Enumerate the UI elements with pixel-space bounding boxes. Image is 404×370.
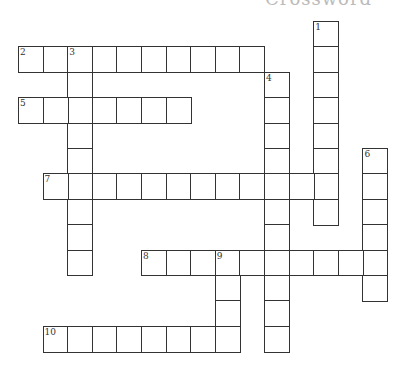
crossword-cell[interactable]: [43, 46, 69, 73]
crossword-cell[interactable]: [141, 173, 167, 200]
clue-number: 10: [45, 327, 56, 337]
crossword-cell[interactable]: [92, 173, 118, 200]
crossword-cell[interactable]: [67, 148, 93, 175]
crossword-cell[interactable]: [67, 123, 93, 150]
clue-number: 5: [20, 98, 26, 108]
crossword-cell[interactable]: 3: [67, 46, 93, 73]
crossword-grid: 12345678910: [0, 0, 404, 370]
crossword-cell[interactable]: [362, 173, 388, 200]
clue-number: 3: [69, 47, 75, 57]
crossword-cell[interactable]: [190, 250, 216, 277]
crossword-cell[interactable]: [116, 97, 142, 124]
crossword-cell[interactable]: [264, 123, 290, 150]
crossword-cell[interactable]: [362, 275, 388, 302]
crossword-cell[interactable]: [362, 199, 388, 226]
crossword-cell[interactable]: [215, 46, 241, 73]
crossword-cell[interactable]: [239, 173, 265, 200]
crossword-cell[interactable]: [215, 326, 241, 353]
crossword-cell[interactable]: [92, 46, 118, 73]
clue-number: 1: [315, 22, 321, 32]
crossword-cell[interactable]: [190, 46, 216, 73]
crossword-cell[interactable]: 10: [43, 326, 69, 353]
crossword-cell[interactable]: [313, 123, 339, 150]
crossword-cell[interactable]: [215, 173, 241, 200]
crossword-cell[interactable]: [313, 148, 339, 175]
crossword-cell[interactable]: [141, 46, 167, 73]
crossword-cell[interactable]: [166, 326, 192, 353]
crossword-cell[interactable]: [264, 148, 290, 175]
crossword-cell[interactable]: [215, 300, 241, 327]
clue-number: 9: [217, 251, 223, 261]
crossword-cell[interactable]: [43, 97, 69, 124]
crossword-cell[interactable]: [362, 224, 388, 251]
crossword-cell[interactable]: [313, 46, 339, 73]
crossword-cell[interactable]: [141, 97, 167, 124]
crossword-cell[interactable]: [67, 72, 93, 99]
crossword-cell[interactable]: [190, 326, 216, 353]
crossword-cell[interactable]: [264, 275, 290, 302]
crossword-cell[interactable]: [289, 250, 315, 277]
crossword-cell[interactable]: [67, 199, 93, 226]
crossword-cell[interactable]: [166, 173, 192, 200]
crossword-cell[interactable]: [313, 173, 339, 200]
clue-number: 7: [45, 174, 51, 184]
clue-number: 6: [364, 149, 370, 159]
crossword-cell[interactable]: [67, 173, 93, 200]
crossword-cell[interactable]: [239, 46, 265, 73]
crossword-cell[interactable]: [67, 224, 93, 251]
crossword-cell[interactable]: [264, 199, 290, 226]
crossword-cell[interactable]: [289, 173, 315, 200]
crossword-cell[interactable]: [166, 46, 192, 73]
crossword-cell[interactable]: [338, 250, 364, 277]
crossword-cell[interactable]: 1: [313, 21, 339, 48]
crossword-cell[interactable]: 7: [43, 173, 69, 200]
crossword-cell[interactable]: 2: [18, 46, 44, 73]
crossword-cell[interactable]: [313, 97, 339, 124]
clue-number: 2: [20, 47, 26, 57]
crossword-cell[interactable]: [67, 250, 93, 277]
crossword-cell[interactable]: [313, 199, 339, 226]
crossword-cell[interactable]: [116, 326, 142, 353]
crossword-cell[interactable]: [166, 250, 192, 277]
clue-number: 4: [266, 73, 272, 83]
crossword-cell[interactable]: [116, 46, 142, 73]
clue-number: 8: [143, 251, 149, 261]
crossword-cell[interactable]: [264, 250, 290, 277]
crossword-cell[interactable]: [264, 173, 290, 200]
crossword-cell[interactable]: [116, 173, 142, 200]
crossword-cell[interactable]: [215, 275, 241, 302]
crossword-cell[interactable]: [67, 326, 93, 353]
crossword-cell[interactable]: [264, 326, 290, 353]
crossword-cell[interactable]: 8: [141, 250, 167, 277]
crossword-cell[interactable]: [264, 224, 290, 251]
crossword-cell[interactable]: [166, 97, 192, 124]
crossword-cell[interactable]: 5: [18, 97, 44, 124]
crossword-cell[interactable]: [264, 300, 290, 327]
crossword-cell[interactable]: [92, 326, 118, 353]
crossword-cell[interactable]: 6: [362, 148, 388, 175]
crossword-cell[interactable]: 4: [264, 72, 290, 99]
crossword-cell[interactable]: [67, 97, 93, 124]
crossword-cell[interactable]: [92, 97, 118, 124]
crossword-cell[interactable]: 9: [215, 250, 241, 277]
crossword-cell[interactable]: [313, 250, 339, 277]
crossword-cell[interactable]: [362, 250, 388, 277]
crossword-cell[interactable]: [313, 72, 339, 99]
crossword-cell[interactable]: [190, 173, 216, 200]
crossword-cell[interactable]: [264, 97, 290, 124]
crossword-cell[interactable]: [141, 326, 167, 353]
crossword-cell[interactable]: [239, 250, 265, 277]
